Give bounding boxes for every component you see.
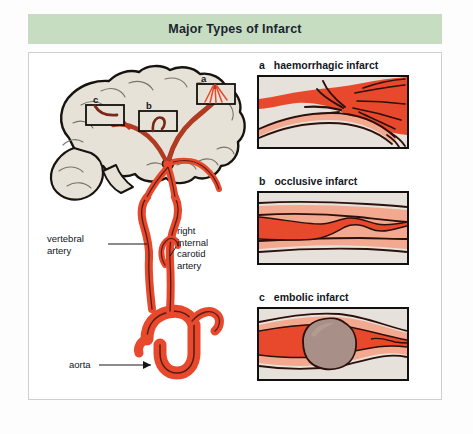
box-letter-a: a — [201, 73, 206, 84]
panel-a-frame — [257, 75, 409, 149]
panel-c-caption: c embolic infarct — [257, 291, 409, 303]
occlusive-infarct-illustration — [259, 193, 407, 263]
panel-a-caption: a haemorrhagic infarct — [257, 59, 409, 71]
box-marker-b — [139, 111, 177, 131]
panel-b-caption: b occlusive infarct — [257, 175, 409, 187]
embolic-infarct-illustration — [259, 309, 407, 379]
diagram-page: Major Types of Infarct — [0, 0, 473, 434]
label-aorta: aorta — [69, 359, 91, 371]
panel-embolic-infarct: c embolic infarct — [257, 291, 409, 381]
panel-c-letter: c — [259, 291, 265, 303]
content-frame: vertebral artery right internal carotid … — [28, 52, 442, 400]
box-letter-b: b — [146, 100, 152, 111]
title-banner: Major Types of Infarct — [28, 14, 442, 44]
label-vertebral-artery: vertebral artery — [47, 233, 109, 256]
brain-arterial-diagram: vertebral artery right internal carotid … — [29, 53, 261, 399]
panel-a-label: haemorrhagic infarct — [274, 59, 378, 71]
embolus — [303, 318, 356, 369]
haemorrhagic-infarct-illustration — [259, 77, 407, 147]
cerebellum-outline — [51, 148, 103, 200]
panel-occlusive-infarct: b occlusive infarct — [257, 175, 409, 265]
box-b-frame — [139, 111, 177, 131]
panel-b-frame — [257, 191, 409, 265]
panel-haemorrhagic-infarct: a haemorrhagic infarct — [257, 59, 409, 149]
label-internal-carotid-artery: right internal carotid artery — [177, 225, 237, 271]
panel-b-letter: b — [259, 175, 265, 187]
panel-c-label: embolic infarct — [274, 291, 349, 303]
page-title: Major Types of Infarct — [168, 22, 301, 36]
leader-aorta-arrow — [143, 361, 151, 369]
panel-b-label: occlusive infarct — [274, 175, 357, 187]
box-letter-c: c — [93, 94, 98, 105]
panel-a-letter: a — [259, 59, 265, 71]
panel-c-frame — [257, 307, 409, 381]
box-marker-a — [197, 84, 235, 104]
aorta-descending-stub — [138, 339, 147, 353]
box-marker-c — [86, 105, 124, 125]
